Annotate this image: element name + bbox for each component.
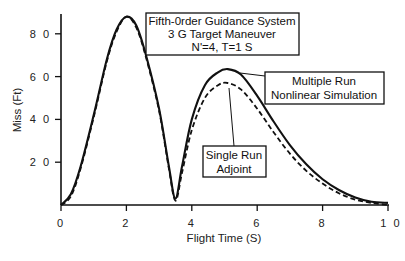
annotation-single-run-line-2: Adjoint (216, 163, 252, 175)
title-line-1: Fifth-0rder Guidance System (148, 15, 295, 27)
x-tick-label: 0 (57, 217, 65, 229)
annotation-single-run-line-1: Single Run (206, 149, 262, 161)
x-ticks: 024681 0 (57, 205, 402, 229)
y-axis-title: Miss (Ft) (11, 87, 23, 132)
annotation-multiple-run-line-2: Nonlinear Simulation (271, 89, 377, 101)
title-line-2: 3 G Target Maneuver (168, 28, 276, 40)
x-axis-title: Flight Time (S) (187, 232, 262, 244)
miss-distance-chart: 2 04 06 08 0 024681 0 Miss (Ft) Flight T… (0, 0, 405, 261)
title-line-3: N'=4, T=1 S (192, 41, 253, 53)
x-tick-label: 2 (122, 217, 130, 229)
annotation-multiple-run-line-1: Multiple Run (292, 75, 356, 87)
x-tick-label: 6 (253, 217, 261, 229)
y-tick-label: 2 0 (30, 156, 51, 168)
x-tick-label: 4 (188, 217, 196, 229)
y-tick-label: 8 0 (30, 28, 51, 40)
y-tick-label: 4 0 (30, 113, 51, 125)
title-box: Fifth-0rder Guidance System 3 G Target M… (146, 13, 299, 55)
annotation-multiple-run: Multiple Run Nonlinear Simulation (240, 72, 384, 104)
y-tick-label: 6 0 (30, 71, 51, 83)
x-tick-label: 1 0 (380, 217, 401, 229)
y-ticks: 2 04 06 08 0 (30, 28, 61, 168)
annotation-single-run: Single Run Adjoint (203, 88, 266, 177)
x-tick-label: 8 (319, 217, 327, 229)
